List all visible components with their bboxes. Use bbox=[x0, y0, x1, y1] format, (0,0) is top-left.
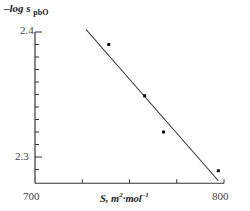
x-label-mid: ·mol bbox=[123, 193, 142, 204]
data-points bbox=[107, 43, 220, 172]
data-point bbox=[143, 94, 146, 97]
x-label-base: S, m bbox=[100, 193, 119, 204]
chart-area bbox=[0, 0, 250, 211]
data-point bbox=[162, 131, 165, 134]
fit-line bbox=[86, 30, 218, 181]
x-tick-label-800: 800 bbox=[212, 190, 229, 202]
axes bbox=[35, 32, 224, 183]
x-tick-label-700: 700 bbox=[23, 190, 40, 202]
y-axis-label-subscript: pbO bbox=[33, 8, 48, 17]
data-point bbox=[107, 43, 110, 46]
x-label-exp2: –1 bbox=[142, 191, 149, 199]
x-axis-label: S, m2·mol–1 bbox=[100, 191, 149, 204]
y-axis-label: –log s pbO bbox=[4, 2, 48, 17]
y-tick-label-2.3: 2.3 bbox=[15, 150, 29, 162]
regression-line bbox=[86, 30, 218, 181]
data-point bbox=[217, 169, 220, 172]
y-tick-label-2.4: 2.4 bbox=[20, 24, 34, 36]
y-axis-label-text: –log s bbox=[4, 2, 31, 14]
